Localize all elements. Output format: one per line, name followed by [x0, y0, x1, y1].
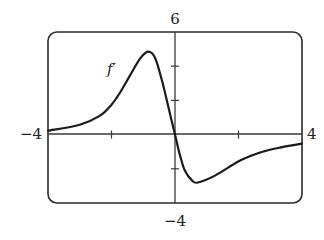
curve-label: f′ [106, 60, 117, 78]
x-max-label: 4 [307, 125, 317, 143]
x-min-label: −4 [20, 125, 42, 143]
y-max-label: 6 [170, 10, 180, 28]
chart: 6 −4 −4 4 f′ [0, 0, 324, 240]
y-min-label: −4 [164, 212, 186, 230]
